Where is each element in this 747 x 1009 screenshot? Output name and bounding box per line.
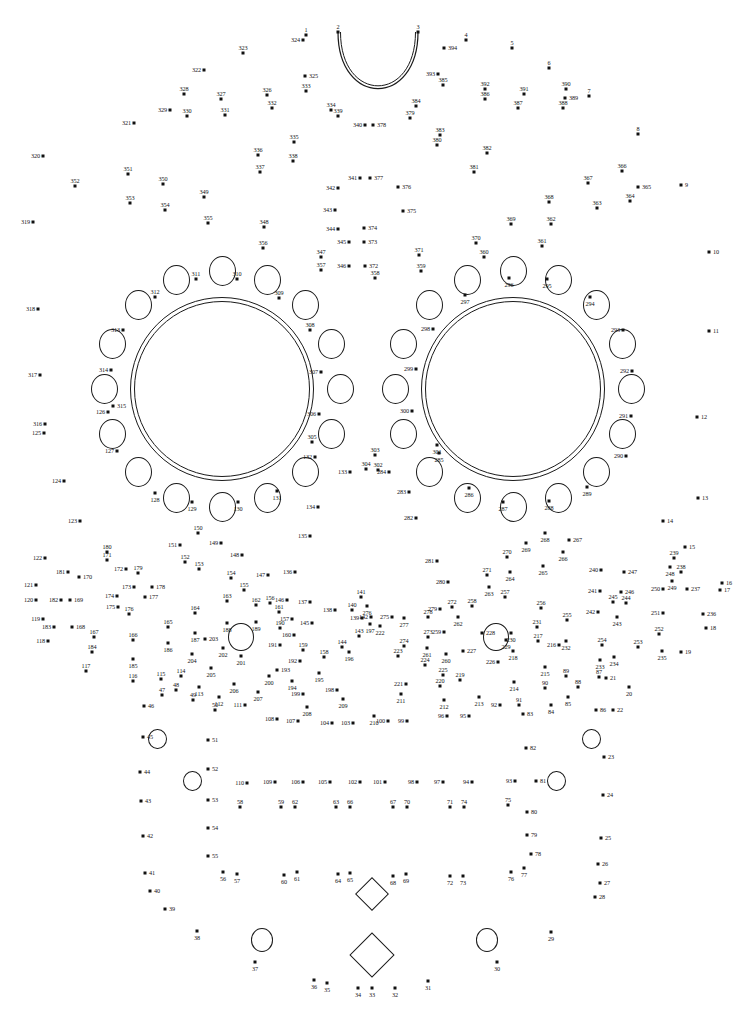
puzzle-dot (106, 559, 109, 562)
puzzle-dot (613, 656, 616, 659)
dot-number-label: 105 (318, 779, 327, 785)
dot-number-label: 290 (614, 453, 623, 459)
puzzle-dot (226, 600, 229, 603)
puzzle-dot (443, 631, 446, 634)
puzzle-dot (254, 961, 257, 964)
puzzle-dot (164, 908, 167, 911)
puzzle-dot (536, 626, 539, 629)
dot-number-label: 82 (530, 745, 536, 751)
dot-number-label: 111 (233, 702, 242, 708)
puzzle-dot (391, 616, 394, 619)
puzzle-dot (394, 987, 397, 990)
dot-number-label: 73 (460, 880, 466, 886)
puzzle-dot (612, 601, 615, 604)
dot-number-label: 36 (311, 984, 317, 990)
puzzle-dot (160, 678, 163, 681)
dot-number-label: 285 (435, 457, 444, 463)
puzzle-dot (403, 617, 406, 620)
dot-number-label: 261 (423, 652, 432, 658)
puzzle-dot (236, 278, 239, 281)
puzzle-dot (602, 794, 605, 797)
dot-number-label: 115 (157, 670, 166, 676)
dot-number-label: 102 (348, 779, 357, 785)
puzzle-dot (447, 581, 450, 584)
puzzle-dot (137, 572, 140, 575)
puzzle-dot (671, 580, 674, 583)
dot-number-label: 301 (433, 449, 442, 455)
puzzle-dot (637, 133, 640, 136)
puzzle-dot (550, 931, 553, 934)
dot-number-label: 311 (192, 270, 201, 276)
dot-number-label: 277 (400, 622, 409, 628)
dot-number-label: 139 (350, 615, 359, 621)
dot-number-label: 377 (374, 175, 383, 181)
dot-number-label: 303 (371, 446, 380, 452)
puzzle-dot (661, 650, 664, 653)
dot-number-label: 389 (569, 95, 578, 101)
dot-number-label: 393 (426, 71, 435, 77)
dot-number-label: 305 (308, 433, 317, 439)
puzzle-dot (237, 501, 240, 504)
puzzle-dot (372, 124, 375, 127)
puzzle-dot (241, 554, 244, 557)
dot-number-label: 34 (355, 992, 361, 998)
puzzle-dot (392, 806, 395, 809)
puzzle-dot (91, 651, 94, 654)
dot-number-label: 28 (599, 894, 605, 900)
puzzle-dot (507, 804, 510, 807)
puzzle-dot (629, 200, 632, 203)
puzzle-dot (179, 544, 182, 547)
puzzle-dot (236, 873, 239, 876)
dot-number-label: 199 (291, 691, 300, 697)
puzzle-dot (279, 627, 282, 630)
dot-number-label: 98 (408, 779, 414, 785)
puzzle-dot (71, 626, 74, 629)
dot-number-label: 127 (105, 448, 114, 454)
dot-number-label: 191 (268, 642, 277, 648)
dot-number-label: 150 (194, 524, 203, 530)
puzzle-dot (278, 297, 281, 300)
puzzle-dot (313, 979, 316, 982)
puzzle-dot (442, 781, 445, 784)
dot-number-label: 55 (212, 853, 218, 859)
puzzle-dot (107, 411, 110, 414)
puzzle-dot (302, 693, 305, 696)
puzzle-dot (622, 329, 625, 332)
puzzle-dot (565, 88, 568, 91)
dot-number-label: 297 (461, 299, 470, 305)
puzzle-dot (544, 532, 547, 535)
puzzle-dot (513, 681, 516, 684)
puzzle-dot (637, 646, 640, 649)
dot-number-label: 11 (713, 328, 719, 334)
top-arc-outer (338, 32, 418, 89)
dot-number-label: 83 (527, 711, 533, 717)
left-eye (228, 623, 254, 652)
dot-number-label: 84 (548, 709, 554, 715)
dot-number-label: 120 (24, 597, 33, 603)
dot-number-label: 212 (440, 704, 449, 710)
puzzle-dot (116, 595, 119, 598)
puzzle-dot (357, 987, 360, 990)
puzzle-dot (116, 450, 119, 453)
dot-number-label: 384 (412, 97, 421, 103)
puzzle-dot (161, 694, 164, 697)
puzzle-dot (616, 616, 619, 619)
puzzle-dot (523, 93, 526, 96)
dot-number-label: 72 (447, 880, 453, 886)
dot-number-label: 154 (227, 569, 236, 575)
dot-number-label: 37 (252, 966, 258, 972)
puzzle-dot (427, 980, 430, 983)
puzzle-dot (439, 685, 442, 688)
dot-number-label: 152 (181, 553, 190, 559)
dot-number-label: 241 (588, 588, 597, 594)
dot-number-label: 91 (516, 696, 522, 702)
puzzle-dot (348, 241, 351, 244)
dot-number-label: 342 (326, 185, 335, 191)
dot-number-label: 135 (298, 533, 307, 539)
dot-number-label: 314 (99, 367, 108, 373)
puzzle-dot (175, 689, 178, 692)
puzzle-dot (334, 609, 337, 612)
puzzle-dot (523, 867, 526, 870)
dot-number-label: 253 (634, 638, 643, 644)
puzzle-dot (708, 251, 711, 254)
